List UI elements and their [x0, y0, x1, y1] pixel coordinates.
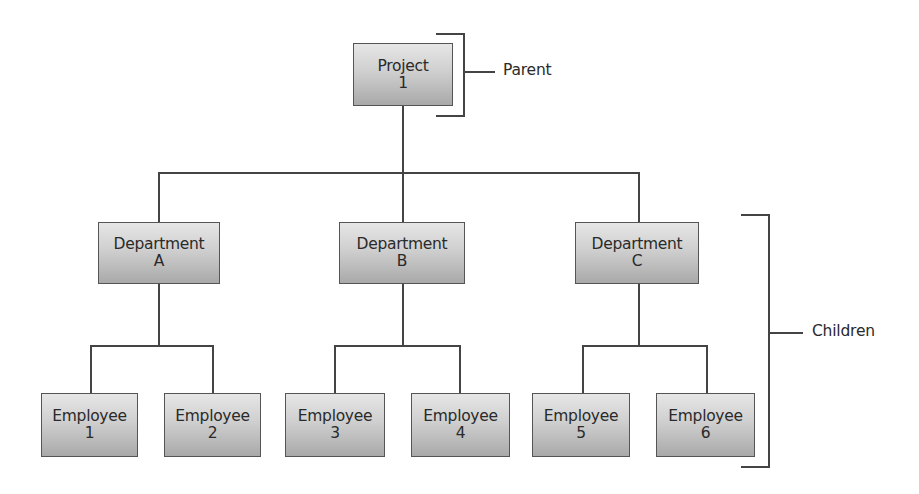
department-b-node: Department B: [339, 222, 465, 284]
node-title: Department: [357, 236, 448, 253]
connector: [90, 345, 213, 347]
children-bracket-bottom: [741, 466, 770, 468]
connector: [638, 284, 640, 345]
employee-5-node: Employee 5: [532, 393, 630, 457]
parent-bracket-vertical: [463, 33, 465, 117]
employee-4-node: Employee 4: [411, 393, 510, 457]
connector: [459, 345, 461, 393]
parent-bracket-top: [436, 33, 465, 35]
node-sub: 2: [208, 425, 218, 442]
connector: [402, 284, 404, 345]
node-sub: A: [154, 253, 164, 270]
node-sub: 1: [85, 425, 95, 442]
connector: [90, 345, 92, 393]
parent-label: Parent: [503, 61, 551, 79]
children-bracket-top: [741, 214, 770, 216]
connector: [402, 172, 404, 222]
employee-2-node: Employee 2: [164, 393, 261, 457]
node-sub: B: [397, 253, 407, 270]
node-title: Employee: [668, 408, 742, 425]
node-sub: 5: [576, 425, 586, 442]
node-sub: 1: [398, 75, 408, 92]
employee-6-node: Employee 6: [656, 393, 755, 457]
node-sub: C: [632, 253, 643, 270]
node-title: Project: [378, 58, 429, 75]
node-sub: 6: [701, 425, 711, 442]
parent-bracket-bottom: [436, 115, 465, 117]
employee-1-node: Employee 1: [41, 393, 138, 457]
connector: [582, 345, 707, 347]
connector: [158, 172, 639, 174]
children-bracket-vertical: [768, 214, 770, 468]
connector: [334, 345, 460, 347]
node-title: Employee: [423, 408, 497, 425]
connector: [212, 345, 214, 393]
node-sub: 3: [330, 425, 340, 442]
children-label: Children: [812, 322, 875, 340]
node-title: Employee: [298, 408, 372, 425]
parent-bracket-tick: [464, 71, 495, 73]
connector: [582, 345, 584, 393]
department-a-node: Department A: [98, 222, 220, 284]
connector: [706, 345, 708, 393]
project-node: Project 1: [353, 43, 453, 106]
connector: [334, 345, 336, 393]
connector: [638, 172, 640, 222]
children-bracket-tick: [769, 332, 803, 334]
employee-3-node: Employee 3: [285, 393, 385, 457]
node-sub: 4: [456, 425, 466, 442]
node-title: Employee: [175, 408, 249, 425]
node-title: Department: [114, 236, 205, 253]
connector: [158, 172, 160, 222]
connector: [402, 106, 404, 173]
node-title: Employee: [52, 408, 126, 425]
connector: [158, 284, 160, 345]
department-c-node: Department C: [575, 222, 699, 284]
node-title: Employee: [544, 408, 618, 425]
node-title: Department: [592, 236, 683, 253]
